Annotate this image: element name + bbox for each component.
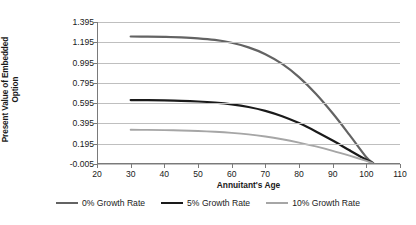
legend-swatch-icon — [266, 202, 288, 204]
y-axis-tick-labels: -0.0050.1950.3950.5950.7950.9951.1951.39… — [32, 0, 94, 225]
y-tick-label: -0.005 — [34, 159, 94, 169]
y-tick-label: 0.395 — [34, 118, 94, 128]
x-tick-mark — [232, 164, 233, 168]
y-tick-label: 0.595 — [34, 98, 94, 108]
x-tick-label: 70 — [261, 169, 271, 179]
x-tick-mark — [366, 164, 367, 168]
x-tick-mark — [265, 164, 266, 168]
series-line — [131, 100, 373, 163]
y-tick-label: 0.795 — [34, 78, 94, 88]
gridline — [97, 103, 400, 104]
legend-swatch-icon — [161, 202, 183, 204]
series-line — [131, 130, 373, 163]
x-axis-title: Annuitant's Age — [97, 180, 400, 190]
x-tick-mark — [97, 164, 98, 168]
y-axis-title: Present Value of Embedded Option — [0, 10, 22, 170]
gridline — [97, 22, 400, 23]
x-tick-label: 50 — [193, 169, 203, 179]
x-tick-label: 80 — [294, 169, 304, 179]
y-tick-label: 1.395 — [34, 17, 94, 27]
x-tick-mark — [299, 164, 300, 168]
chart-legend: 0% Growth Rate5% Growth Rate10% Growth R… — [0, 198, 416, 208]
plot-area — [97, 22, 400, 164]
x-tick-mark — [333, 164, 334, 168]
chart-container: Present Value of Embedded Option -0.0050… — [0, 0, 416, 225]
x-tick-label: 90 — [328, 169, 338, 179]
y-tick-label: 0.195 — [34, 139, 94, 149]
x-axis-line — [97, 163, 400, 164]
gridline — [97, 42, 400, 43]
legend-label: 5% Growth Rate — [187, 198, 250, 208]
gridline — [97, 164, 400, 165]
x-tick-label: 110 — [393, 169, 407, 179]
y-tick-label: 1.195 — [34, 37, 94, 47]
x-tick-mark — [164, 164, 165, 168]
y-tick-label: 0.995 — [34, 58, 94, 68]
legend-label: 10% Growth Rate — [292, 198, 360, 208]
series-lines — [97, 22, 400, 164]
gridline — [97, 123, 400, 124]
x-tick-label: 40 — [160, 169, 170, 179]
legend-item[interactable]: 0% Growth Rate — [56, 198, 145, 208]
gridline — [97, 63, 400, 64]
y-axis-line — [97, 22, 98, 164]
x-tick-label: 100 — [359, 169, 373, 179]
x-tick-label: 20 — [92, 169, 102, 179]
y-axis-title-line-1: Present Value of Embedded — [1, 37, 11, 142]
x-tick-mark — [198, 164, 199, 168]
x-tick-label: 30 — [126, 169, 136, 179]
legend-item[interactable]: 5% Growth Rate — [161, 198, 250, 208]
x-tick-label: 60 — [227, 169, 237, 179]
gridline — [97, 83, 400, 84]
y-axis-title-line-2: Option — [11, 37, 21, 142]
gridline — [97, 144, 400, 145]
legend-label: 0% Growth Rate — [82, 198, 145, 208]
x-tick-mark — [400, 164, 401, 168]
x-tick-mark — [131, 164, 132, 168]
legend-item[interactable]: 10% Growth Rate — [266, 198, 360, 208]
legend-swatch-icon — [56, 202, 78, 204]
